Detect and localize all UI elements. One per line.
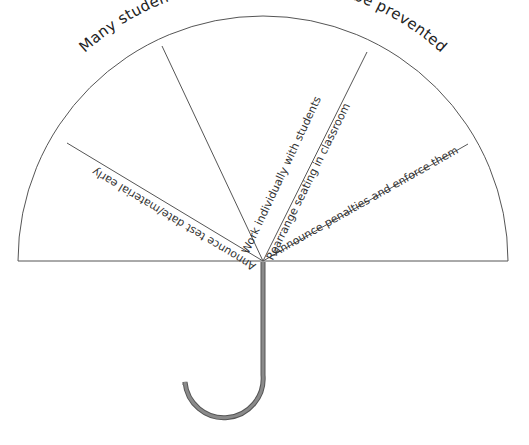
- spoke-1: [67, 143, 263, 261]
- segment-label-1: Announce test date/material early: [89, 165, 258, 274]
- umbrella-handle: [185, 262, 263, 418]
- umbrella-diagram: Many students believe cheating can be pr…: [0, 0, 529, 445]
- diagram-title: Many students believe cheating can be pr…: [75, 0, 450, 56]
